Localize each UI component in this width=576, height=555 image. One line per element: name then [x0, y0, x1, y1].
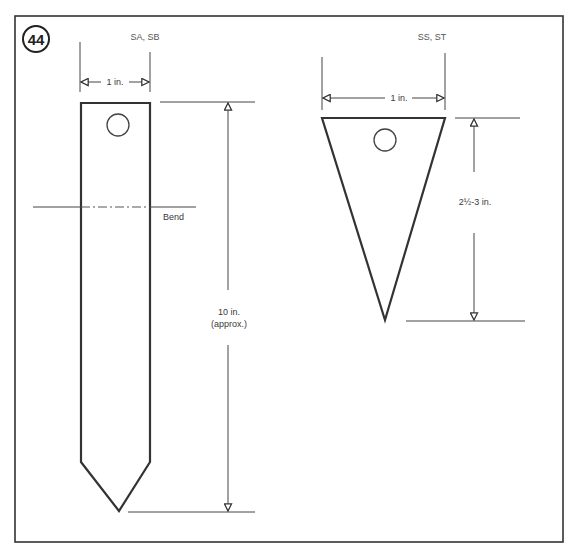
figure-number: 44	[28, 31, 45, 48]
tag-left-length-label-1: 10 in.	[218, 307, 240, 317]
tag-right-outline	[322, 118, 445, 320]
figure-border	[15, 16, 563, 542]
tag-left-width-label: 1 in.	[106, 77, 123, 87]
tag-right-length-label: 2½-3 in.	[459, 197, 492, 207]
tag-left-caption: SA, SB	[130, 32, 159, 42]
tag-sa-sb: SA, SB 1 in. Bend 10 in. (approx.)	[33, 32, 255, 512]
tag-right-hole	[374, 129, 396, 151]
figure-canvas: 44 SA, SB 1 in. Bend 10 in. (approx.) SS…	[0, 0, 576, 555]
tag-left-outline	[81, 103, 150, 511]
bend-label: Bend	[163, 212, 184, 222]
figure-number-badge: 44	[23, 26, 49, 52]
tag-left-length-label-2: (approx.)	[211, 319, 247, 329]
tag-ss-st: SS, ST 1 in. 2½-3 in.	[322, 32, 525, 321]
tag-right-caption: SS, ST	[418, 32, 447, 42]
tag-left-hole	[107, 114, 129, 136]
tag-right-width-label: 1 in.	[390, 93, 407, 103]
